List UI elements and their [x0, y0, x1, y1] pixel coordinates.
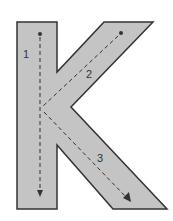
letter-k-diagram: 1 2 3 — [0, 0, 173, 221]
stroke-3-label: 3 — [97, 152, 103, 164]
stroke-1-start-dot — [38, 32, 42, 36]
stroke-1-label: 1 — [23, 48, 29, 60]
stroke-2-start-dot — [119, 31, 123, 35]
stroke-2-label: 2 — [86, 68, 92, 80]
